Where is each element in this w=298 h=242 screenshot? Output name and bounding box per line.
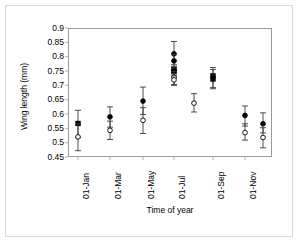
open-circle-marker — [141, 118, 146, 123]
data-point-group — [191, 94, 197, 112]
chart-figure: 0.450.50.550.60.650.70.750.80.850.9 01-J… — [0, 0, 298, 242]
open-circle-marker — [76, 135, 81, 140]
x-axis-tick-label: 01-Nov — [249, 172, 258, 199]
x-axis-tick-label: 01-Sep — [217, 172, 226, 199]
y-axis-tick-label: 0.75 — [36, 67, 64, 76]
x-axis-tick-label: 01-Jul — [178, 176, 187, 199]
data-point-group — [75, 124, 81, 151]
data-point-group — [140, 108, 146, 134]
data-point-group — [210, 70, 216, 89]
y-axis-tick-label: 0.5 — [36, 138, 64, 147]
x-axis-tick-label: 01-Mar — [114, 172, 123, 199]
x-axis-tick-label: 01-May — [147, 171, 156, 199]
x-axis-title: Time of year — [68, 206, 272, 215]
x-axis-tick-label: 01-Jan — [82, 173, 91, 199]
open-circle-marker — [108, 128, 113, 133]
filled-circle-marker — [243, 113, 248, 118]
filled-circle-marker — [172, 59, 177, 64]
filled-circle-marker — [108, 115, 113, 120]
data-point-group — [260, 128, 266, 148]
y-axis-tick-label: 0.7 — [36, 81, 64, 90]
y-axis-tick-label: 0.55 — [36, 124, 64, 133]
open-circle-marker — [192, 101, 197, 106]
filled-circle-marker — [141, 99, 146, 104]
y-axis-tick-label: 0.65 — [36, 95, 64, 104]
y-axis-tick-label: 0.6 — [36, 110, 64, 119]
data-point-group — [242, 106, 248, 126]
y-axis-tick-label: 0.9 — [36, 24, 64, 33]
open-circle-marker — [243, 130, 248, 135]
filled-circle-marker — [261, 121, 266, 126]
filled-square-marker — [211, 77, 215, 81]
y-axis-tick-label: 0.85 — [36, 38, 64, 47]
y-axis-title: Wing length (mm) — [20, 63, 29, 130]
y-axis-tick-label: 0.45 — [36, 153, 64, 162]
open-circle-marker — [172, 78, 177, 83]
data-point-group — [107, 121, 113, 139]
open-circle-marker — [261, 135, 266, 140]
y-axis-tick-label: 0.8 — [36, 52, 64, 61]
